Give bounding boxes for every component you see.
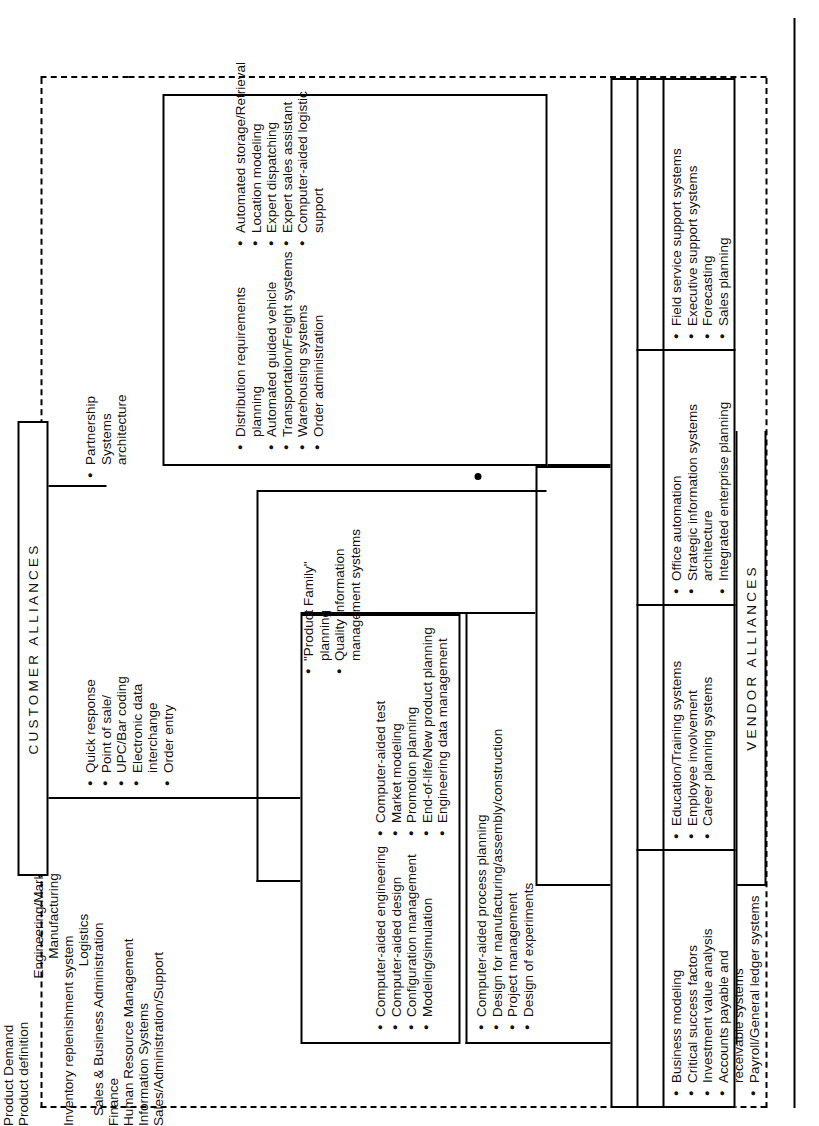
- sba-hr-list: Education/Training systems Employee invo…: [668, 661, 715, 839]
- logistics-title: Logistics: [75, 754, 90, 1126]
- vendor-alliances-label: VENDOR ALLIANCES: [743, 564, 758, 750]
- sba-header-rule: [636, 78, 638, 1108]
- list-item: Warehousing systems: [294, 251, 310, 450]
- logistics-box: [162, 94, 547, 466]
- list-item: Transportation/Freight systems: [279, 251, 295, 450]
- logistics-left-list: Distribution requirements planning Autom…: [232, 251, 325, 450]
- sba-column-name-finance: Finance: [105, 0, 120, 1126]
- list-item: Sales planning: [715, 148, 731, 339]
- list-item: Critical success factors: [684, 895, 700, 1096]
- customer-alliances-banner: CUSTOMER ALLIANCES: [17, 421, 48, 876]
- diagram-rotation-wrapper: CUSTOMER ALLIANCES VENDOR ALLIANCES Prod…: [0, 0, 819, 1126]
- product-demand-label: Product Demand: [0, 0, 15, 1126]
- product-demand-list: Quick response Point of sale/ UPC/Bar co…: [82, 676, 175, 786]
- list-item: Field service support systems: [668, 148, 684, 339]
- list-item: UPC/Bar coding: [113, 676, 129, 786]
- list-item: Business modeling: [668, 895, 684, 1096]
- list-item: Career planning systems: [699, 661, 715, 839]
- list-item: Investment value analysis: [699, 895, 715, 1096]
- list-item: Computer-aided logistic: [294, 62, 310, 246]
- sba-divider-1: [636, 849, 735, 851]
- sba-name-rule: [662, 78, 664, 1108]
- product-definition-region: [256, 492, 300, 882]
- list-item: Promotion planning: [403, 627, 419, 836]
- list-item: Payroll/General ledger systems: [746, 895, 762, 1096]
- list-item: Quick response: [82, 676, 98, 786]
- list-item: Order administration: [310, 251, 326, 450]
- list-item: Computer-aided design: [388, 846, 404, 1030]
- list-item: Partnership: [82, 394, 98, 478]
- list-item: Engineering data management: [434, 627, 450, 836]
- list-item: Office automation: [668, 402, 684, 594]
- list-item: Computer-aided test: [372, 627, 388, 836]
- sba-finance-list: Business modeling Critical success facto…: [668, 895, 761, 1096]
- list-item: Computer-aided process planning: [473, 729, 489, 1030]
- sba-column-name-is: Information Systems: [135, 0, 150, 1126]
- list-item: Configuration management: [403, 846, 419, 1030]
- list-item: Location modeling: [248, 62, 264, 246]
- list-item: Distribution requirements: [232, 251, 248, 450]
- list-item-continuation: planning: [316, 529, 332, 674]
- list-item: Quality information: [331, 529, 347, 674]
- bridge-list: Computer-aided process planning Design f…: [473, 729, 535, 1030]
- sba-column-name-hr: Human Resource Management: [120, 0, 135, 1126]
- list-item: Automated storage/Retrieval: [232, 62, 248, 246]
- engineering-marketing-right-list: Computer-aided test Market modeling Prom…: [372, 627, 450, 836]
- vendor-alliances-banner: VENDOR ALLIANCES: [735, 431, 766, 886]
- list-item: End-of-life/New product planning: [419, 627, 435, 836]
- list-item: Strategic information systems: [684, 402, 700, 594]
- list-item: Modeling/simulation: [419, 846, 435, 1030]
- list-item: "Product Family": [300, 529, 316, 674]
- list-item: Design for manufacturing/assembly/constr…: [489, 729, 505, 1030]
- list-item-continuation: management systems: [347, 529, 363, 674]
- list-item-continuation: support: [310, 62, 326, 246]
- sba-divider-3: [636, 349, 735, 351]
- list-item: Integrated enterprise planning: [715, 402, 731, 594]
- list-item: Order entry: [160, 676, 176, 786]
- list-item: Automated guided vehicle: [263, 251, 279, 450]
- list-item: Electronic data: [129, 676, 145, 786]
- list-item-continuation: architecture: [113, 394, 129, 478]
- customer-alliances-label: CUSTOMER ALLIANCES: [25, 543, 40, 755]
- list-item: Computer-aided engineering: [372, 846, 388, 1030]
- list-item-continuation: interchange: [144, 676, 160, 786]
- list-item: Accounts payable and: [715, 895, 731, 1096]
- list-item: Design of experiments: [520, 729, 536, 1030]
- sba-sales-list: Field service support systems Executive …: [668, 148, 730, 339]
- diagram-canvas: CUSTOMER ALLIANCES VENDOR ALLIANCES Prod…: [0, 0, 819, 1126]
- list-item: Expert sales assistant: [279, 62, 295, 246]
- list-item-continuation: architecture: [699, 402, 715, 594]
- partnership-connector: [48, 485, 106, 487]
- list-item: Project management: [504, 729, 520, 1030]
- list-item: Point of sale/: [98, 676, 114, 786]
- logistics-right-list: Automated storage/Retrieval Location mod…: [232, 62, 325, 246]
- sba-divider-2: [636, 604, 735, 606]
- list-item: Market modeling: [388, 627, 404, 836]
- inventory-replenishment-label: Inventory replenishment system: [60, 0, 75, 1126]
- inventory-bullet-dot: [474, 473, 481, 480]
- product-family-list: "Product Family" planning Quality inform…: [300, 529, 362, 674]
- bridge-rule: [465, 614, 467, 1044]
- sba-is-list: Office automation Strategic information …: [668, 402, 730, 594]
- list-item: Executive support systems: [684, 148, 700, 339]
- list-item: Forecasting: [699, 148, 715, 339]
- list-item: Expert dispatching: [263, 62, 279, 246]
- list-item-continuation: Systems: [98, 394, 114, 478]
- engineering-marketing-left-list: Computer-aided engineering Computer-aide…: [372, 846, 434, 1030]
- outer-dashed-right-upper: [40, 76, 128, 78]
- page-rule-right: [793, 18, 795, 1108]
- partnership-list: Partnership Systems architecture: [82, 394, 129, 478]
- list-item-continuation: receivable systems: [730, 895, 746, 1096]
- list-item-continuation: planning: [248, 251, 264, 450]
- sba-title: Sales & Business Administration: [90, 786, 105, 1126]
- inventory-connector-left: [256, 490, 546, 492]
- list-item: Education/Training systems: [668, 661, 684, 839]
- list-item: Employee involvement: [684, 661, 700, 839]
